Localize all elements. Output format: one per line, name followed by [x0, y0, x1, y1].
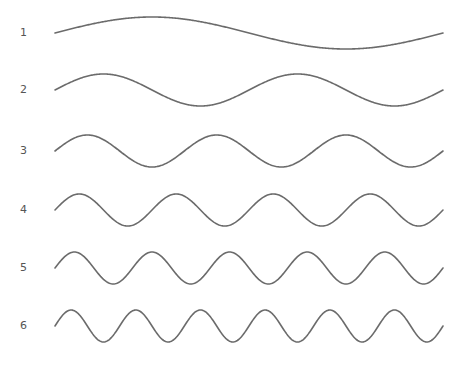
wave-label-1: 1	[20, 27, 34, 39]
wave-4	[55, 194, 443, 226]
wave-label-6: 6	[20, 320, 34, 332]
wave-6	[55, 310, 443, 342]
wave-5	[55, 252, 443, 284]
wave-label-2: 2	[20, 84, 34, 96]
wave-label-3: 3	[20, 145, 34, 157]
wave-3	[55, 135, 443, 167]
wave-1	[55, 17, 443, 49]
wave-label-4: 4	[20, 204, 34, 216]
waves-canvas	[0, 0, 466, 365]
waves-diagram: 1 2 3 4 5 6	[0, 0, 466, 365]
wave-label-5: 5	[20, 262, 34, 274]
wave-2	[55, 74, 443, 106]
